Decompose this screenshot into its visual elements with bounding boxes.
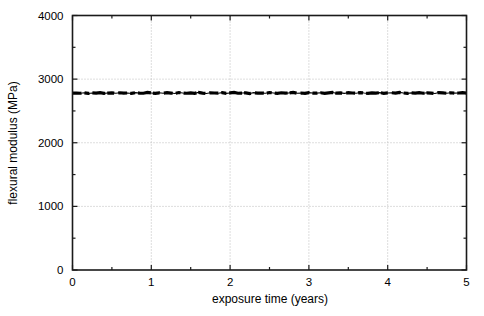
x-tick-label: 4 bbox=[384, 276, 391, 288]
y-tick-label: 3000 bbox=[38, 73, 64, 85]
chart-figure: 012345 01000200030004000 exposure time (… bbox=[0, 0, 484, 316]
x-tick-label: 3 bbox=[306, 276, 312, 288]
x-tick-label: 2 bbox=[227, 276, 233, 288]
x-axis-title: exposure time (years) bbox=[212, 292, 328, 306]
flexural-modulus-line-chart: 012345 01000200030004000 exposure time (… bbox=[0, 0, 484, 316]
x-tick-label: 5 bbox=[463, 276, 469, 288]
y-tick-label: 4000 bbox=[38, 10, 64, 22]
x-tick-label: 1 bbox=[148, 276, 154, 288]
x-tick-label: 0 bbox=[69, 276, 75, 288]
data-series-group bbox=[73, 92, 467, 93]
y-tick-label: 2000 bbox=[38, 137, 64, 149]
y-axis-title: flexural modulus (MPa) bbox=[6, 81, 20, 204]
y-tick-label: 0 bbox=[57, 264, 63, 276]
y-tick-label: 1000 bbox=[38, 200, 64, 212]
